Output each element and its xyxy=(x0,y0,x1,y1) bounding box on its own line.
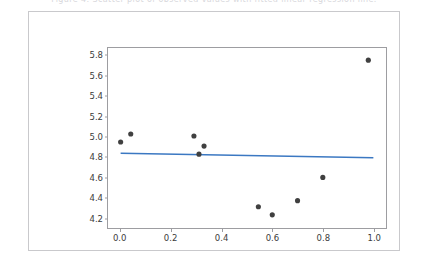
figure-card: 4.24.44.64.85.05.25.45.65.8 0.00.20.40.6… xyxy=(28,11,400,251)
x-tick-label: 0.6 xyxy=(256,233,288,243)
y-tick-label: 5.4 xyxy=(77,91,103,101)
x-axis-tick-labels: 0.00.20.40.60.81.0 xyxy=(107,233,387,247)
x-tick-mark xyxy=(272,229,273,232)
scatter-point xyxy=(256,204,261,209)
scatter-point xyxy=(320,175,325,180)
x-tick-mark xyxy=(120,229,121,232)
top-caption-text: Figure 4: Scatter plot of observed value… xyxy=(0,0,428,4)
y-tick-label: 4.6 xyxy=(77,173,103,183)
x-tick-label: 0.8 xyxy=(307,233,339,243)
x-axis-tick-marks xyxy=(107,229,387,233)
scatter-point xyxy=(118,139,123,144)
plot-area xyxy=(107,47,387,229)
x-tick-mark xyxy=(171,229,172,232)
x-tick-label: 0.0 xyxy=(104,233,136,243)
scatter-point xyxy=(366,58,371,63)
scatter-point xyxy=(270,212,275,217)
y-tick-label: 5.2 xyxy=(77,112,103,122)
y-tick-label: 4.4 xyxy=(77,193,103,203)
y-tick-label: 4.2 xyxy=(77,214,103,224)
scatter-point xyxy=(295,198,300,203)
y-tick-label: 5.8 xyxy=(77,50,103,60)
y-tick-label: 5.0 xyxy=(77,132,103,142)
regression-line xyxy=(121,153,374,158)
x-tick-mark xyxy=(374,229,375,232)
y-tick-label: 4.8 xyxy=(77,152,103,162)
x-tick-mark xyxy=(222,229,223,232)
x-tick-label: 0.2 xyxy=(155,233,187,243)
scatter-point xyxy=(201,144,206,149)
y-tick-label: 5.6 xyxy=(77,71,103,81)
scatter-point xyxy=(196,152,201,157)
x-tick-label: 0.4 xyxy=(206,233,238,243)
scatter-plot-canvas xyxy=(108,48,386,228)
x-tick-label: 1.0 xyxy=(358,233,390,243)
top-caption: Figure 4: Scatter plot of observed value… xyxy=(0,0,428,9)
x-tick-mark xyxy=(323,229,324,232)
scatter-point xyxy=(128,131,133,136)
y-axis-tick-labels: 4.24.44.64.85.05.25.45.65.8 xyxy=(73,47,103,229)
scatter-point xyxy=(191,133,196,138)
